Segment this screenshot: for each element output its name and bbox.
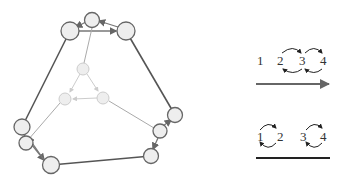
- label-3: 3: [300, 129, 307, 144]
- legend-top: 1 2 3 4: [256, 49, 329, 85]
- label-3: 3: [299, 53, 306, 68]
- node-inner-right: [97, 92, 109, 104]
- node-top: [85, 13, 100, 28]
- node-inner-top: [77, 63, 89, 75]
- label-4: 4: [320, 53, 327, 68]
- legend-bottom: 1 2 3 4: [256, 124, 330, 158]
- node-right: [168, 108, 183, 123]
- node-top-right: [117, 22, 135, 40]
- label-4: 4: [320, 129, 327, 144]
- node-bottom-right: [144, 149, 159, 164]
- inner-triangle: [70, 74, 98, 99]
- node-right-low: [153, 124, 167, 138]
- graph-diagram: [0, 0, 200, 179]
- node-top-left: [61, 22, 79, 40]
- label-2: 2: [277, 129, 284, 144]
- label-2: 2: [277, 53, 284, 68]
- inner-edges: [28, 28, 154, 140]
- node-inner-left: [59, 93, 71, 105]
- label-1: 1: [257, 53, 264, 68]
- node-left-low: [19, 136, 33, 150]
- label-1: 1: [257, 129, 264, 144]
- node-left: [14, 119, 30, 135]
- node-bottom-left: [43, 157, 60, 174]
